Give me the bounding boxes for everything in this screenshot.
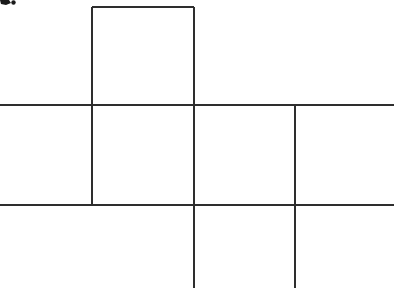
figure-canvas — [0, 0, 394, 288]
ink-marks — [0, 0, 16, 5]
top-left-ink-dot — [11, 0, 15, 4]
diagram-background — [0, 0, 394, 288]
cube-net-diagram — [0, 0, 394, 288]
